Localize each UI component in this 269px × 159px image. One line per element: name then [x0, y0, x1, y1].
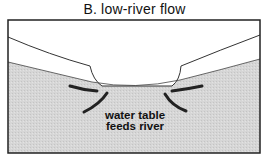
annotation-water-table: water table feeds river	[100, 110, 170, 132]
river-water	[91, 66, 182, 86]
low-river-flow-diagram	[0, 0, 269, 159]
annotation-line-2: feeds river	[100, 121, 170, 132]
